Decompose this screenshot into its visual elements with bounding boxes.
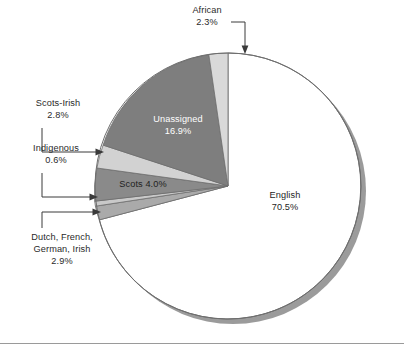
- label-scots-inline: Scots 4.0%: [119, 179, 166, 189]
- label-unassigned-name: Unassigned: [153, 114, 202, 124]
- label-english-name: English: [270, 190, 301, 200]
- label-dutch-line2: German, Irish: [34, 244, 91, 254]
- label-scots-irish-name: Scots-Irish: [36, 98, 80, 108]
- label-unassigned-value: 16.9%: [165, 126, 192, 136]
- pie-chart-figure: African 2.3% Scots-Irish 2.8% Indigenous…: [0, 0, 404, 350]
- leader-african: [231, 22, 248, 54]
- leader-indigenous: [42, 173, 98, 200]
- label-scots-irish-value: 2.8%: [47, 110, 68, 120]
- leader-dutch-french-german-irish: [42, 209, 101, 228]
- label-dutch-value: 2.9%: [51, 256, 72, 266]
- label-indigenous-value: 0.6%: [45, 155, 66, 165]
- label-dutch-line1: Dutch, French,: [31, 232, 93, 242]
- label-african-value: 2.3%: [196, 17, 217, 27]
- pie-chart-svg: African 2.3% Scots-Irish 2.8% Indigenous…: [0, 0, 404, 350]
- label-indigenous-name: Indigenous: [33, 143, 79, 153]
- label-english-value: 70.5%: [272, 202, 299, 212]
- label-african-name: African: [192, 5, 221, 15]
